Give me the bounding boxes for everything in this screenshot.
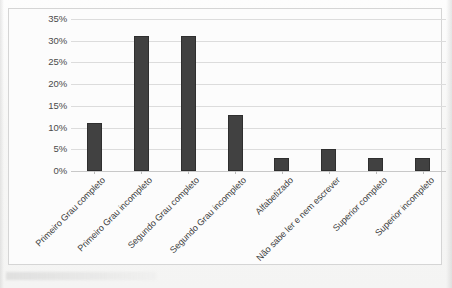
gridline-5pct [71,149,446,150]
y-axis-tick-label: 10% [23,123,67,133]
y-axis-tick-label: 20% [23,79,67,89]
x-axis-tick-mark [235,171,236,174]
y-axis-tick-label: 35% [23,14,67,24]
bar [228,115,243,171]
x-axis-tick-mark [141,171,142,174]
x-axis-tick-mark [423,171,424,174]
x-axis-tick-mark [282,171,283,174]
x-axis-category-label: Não sabe ler e nem escrever [254,175,342,263]
bar [134,36,149,171]
bar [181,36,196,171]
gridline-15pct [71,106,446,107]
gridline-25pct [71,62,446,63]
x-axis-category-label: Segundo Grau incompleto [168,175,248,255]
x-axis-category-labels: Primeiro Grau completoPrimeiro Grau inco… [71,175,451,270]
scan-edge-shadow-left [0,0,4,288]
x-axis-tick-mark [376,171,377,174]
chart-frame: 0%5%10%15%20%25%30%35% Primeiro Grau com… [8,8,442,265]
bar [321,149,336,171]
y-axis-tick-label: 15% [23,101,67,111]
bar [87,123,102,171]
x-axis-tick-mark [329,171,330,174]
scan-artifact [6,272,156,280]
y-axis-tick-label: 5% [23,144,67,154]
x-axis-tick-mark [94,171,95,174]
scanned-page-background: 0%5%10%15%20%25%30%35% Primeiro Grau com… [0,0,452,288]
bar [274,158,289,171]
x-axis-category-label: Alfabetizado [253,175,295,217]
x-axis-tick-mark [188,171,189,174]
y-axis-tick-label: 25% [23,57,67,67]
bar [368,158,383,171]
y-axis-tick-label: 0% [23,166,67,176]
gridline-10pct [71,128,446,129]
plot-area [71,19,446,171]
y-axis-tick-label: 30% [23,36,67,46]
y-axis-tick-labels: 0%5%10%15%20%25%30%35% [19,19,67,171]
gridline-20pct [71,84,446,85]
bar [415,158,430,171]
gridline-35pct [71,19,446,20]
gridline-30pct [71,41,446,42]
